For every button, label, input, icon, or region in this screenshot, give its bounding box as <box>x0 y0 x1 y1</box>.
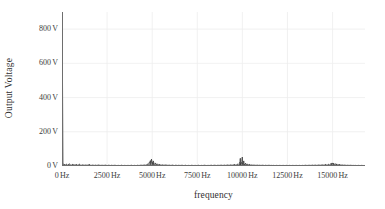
x-tick-label: 0Hz <box>55 172 70 180</box>
x-tick-label: 10000Hz <box>227 172 258 180</box>
x-axis-title: frequency <box>62 190 365 200</box>
x-tick-value: 12500 <box>272 171 292 180</box>
x-axis-title-text: frequency <box>194 190 233 200</box>
x-tick-unit: Hz <box>60 171 69 180</box>
x-tick-unit: Hz <box>156 171 165 180</box>
x-tick-value: 10000 <box>227 171 247 180</box>
x-tick-value: 5000 <box>139 171 155 180</box>
x-tick-label: 5000Hz <box>139 172 166 180</box>
x-tick-label: 7500Hz <box>184 172 211 180</box>
x-tick-unit: Hz <box>338 171 347 180</box>
x-tick-value: 7500 <box>184 171 200 180</box>
x-tick-unit: Hz <box>201 171 210 180</box>
spectrum-chart-figure: Output Voltage 0V200V400V600V800V 0Hz250… <box>0 0 385 209</box>
x-tick-unit: Hz <box>111 171 120 180</box>
x-tick-unit: Hz <box>248 171 257 180</box>
x-tick-value: 15000 <box>317 171 337 180</box>
spectrum-plot-svg <box>62 12 365 166</box>
x-tick-value: 2500 <box>94 171 110 180</box>
x-tick-label: 2500Hz <box>94 172 121 180</box>
plot-area <box>62 12 365 166</box>
x-tick-value: 0 <box>55 171 59 180</box>
x-tick-unit: Hz <box>293 171 302 180</box>
x-tick-label: 15000Hz <box>317 172 348 180</box>
x-tick-label: 12500Hz <box>272 172 303 180</box>
